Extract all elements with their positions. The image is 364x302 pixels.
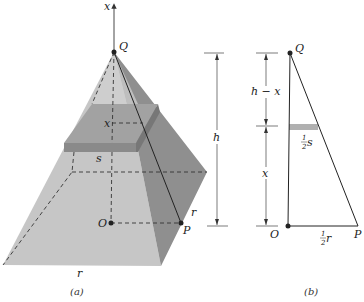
section-dimensions: h − x x bbox=[251, 53, 281, 226]
label-half-s: 1 2 s bbox=[301, 134, 313, 151]
caption-b: (b) bbox=[304, 286, 318, 297]
point-Q-b bbox=[288, 51, 293, 56]
svg-text:1: 1 bbox=[302, 134, 306, 142]
caption-a: (a) bbox=[70, 286, 84, 297]
svg-text:s: s bbox=[307, 136, 313, 149]
label-h: h bbox=[213, 131, 220, 144]
svg-text:r: r bbox=[326, 232, 332, 245]
figure-b-triangle: Q O P 1 2 s 1 2 r h − x x bbox=[251, 42, 362, 297]
label-x-b: x bbox=[262, 167, 269, 180]
label-O: O bbox=[98, 217, 107, 230]
label-P: P bbox=[182, 224, 191, 237]
label-Q: Q bbox=[119, 40, 128, 53]
figure-a-pyramid: x Q O P x s r r h (a) bbox=[3, 0, 228, 297]
point-O-b bbox=[286, 224, 291, 229]
label-r-base: r bbox=[77, 267, 83, 280]
point-O bbox=[109, 221, 114, 226]
label-half-r: 1 2 r bbox=[320, 230, 332, 247]
axis-label-x: x bbox=[104, 0, 111, 13]
point-Q bbox=[112, 50, 117, 55]
section-bar bbox=[289, 124, 318, 130]
slab-front-face bbox=[64, 143, 136, 152]
edge-QP-b bbox=[290, 53, 358, 226]
label-P-b: P bbox=[353, 228, 362, 241]
label-s: s bbox=[96, 152, 102, 165]
edge-QO bbox=[288, 53, 290, 226]
label-r-diagonal: r bbox=[191, 206, 197, 219]
label-O-b: O bbox=[270, 228, 279, 241]
pyramid-volume-diagram: x Q O P x s r r h (a) Q O P bbox=[0, 0, 364, 302]
label-h-minus-x: h − x bbox=[251, 85, 281, 98]
svg-text:1: 1 bbox=[321, 230, 325, 238]
height-dimension: h bbox=[204, 53, 228, 226]
label-Q-b: Q bbox=[295, 42, 304, 55]
label-section-x: x bbox=[104, 117, 111, 130]
